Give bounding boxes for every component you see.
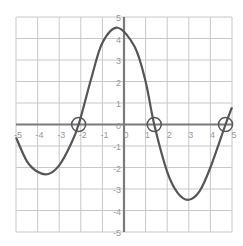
y-tick-label: 5: [116, 13, 121, 23]
y-tick-label: -3: [113, 185, 121, 195]
x-tick-label: -3: [57, 130, 65, 140]
y-tick-label: 1: [116, 99, 121, 109]
x-tick-label: 1: [145, 130, 150, 140]
x-tick-label: 4: [210, 130, 215, 140]
x-tick-label: 3: [188, 130, 193, 140]
x-tick-label: 2: [167, 130, 172, 140]
x-tick-label: -4: [36, 130, 44, 140]
x-tick-label: 5: [231, 130, 236, 140]
y-tick-label: 4: [116, 35, 121, 45]
y-tick-label: -2: [113, 164, 121, 174]
y-tick-label: 2: [116, 78, 121, 88]
y-tick-label: -5: [113, 228, 121, 238]
x-tick-label: -1: [100, 130, 108, 140]
function-graph: -5-4-3-2-101234554321-1-2-3-4-50: [0, 0, 243, 246]
y-tick-label: -1: [113, 142, 121, 152]
x-tick-label: 0: [123, 130, 128, 140]
y-tick-label: 3: [116, 56, 121, 66]
y-tick-label: -4: [113, 207, 121, 217]
y-tick-label: 0: [116, 121, 121, 131]
